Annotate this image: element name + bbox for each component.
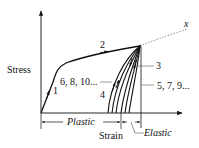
elastic-leader xyxy=(131,122,144,133)
fracture-label: x xyxy=(183,18,189,29)
x-axis-label: Strain xyxy=(99,130,123,141)
stress-strain-diagram: Stress 1 2 3 4 6, 8, 10... 5, 7, 9... x … xyxy=(0,0,199,148)
loading-cycles-label: 6, 8, 10... xyxy=(60,76,98,87)
segment-2-label: 2 xyxy=(100,39,105,50)
segment-1-label: 1 xyxy=(53,85,58,96)
segment-4-label: 4 xyxy=(100,89,105,100)
fracture-extension xyxy=(140,29,188,46)
elastic-label: Elastic xyxy=(143,127,172,138)
y-axis-label: Stress xyxy=(7,64,31,75)
segment-3-label: 3 xyxy=(156,60,161,71)
loading-arrow xyxy=(112,83,115,92)
hysteresis-loops xyxy=(108,46,140,113)
plastic-label: Plastic xyxy=(66,116,95,127)
unloading-cycles-label: 5, 7, 9... xyxy=(157,80,190,91)
